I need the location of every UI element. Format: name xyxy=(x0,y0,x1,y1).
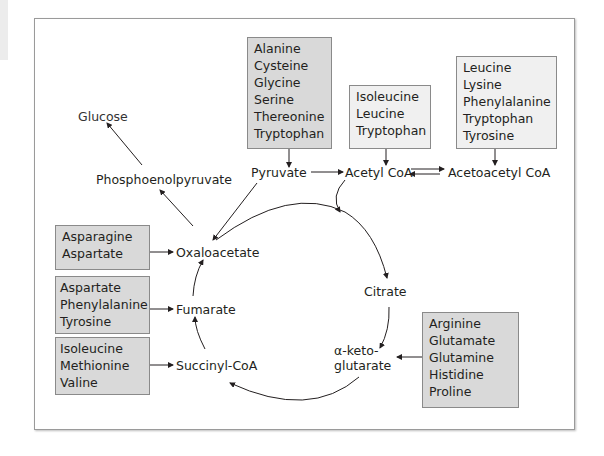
node-glucose: Glucose xyxy=(78,109,128,124)
amino-acid: Valine xyxy=(60,374,143,391)
node-fumarate: Fumarate xyxy=(176,302,236,317)
node-phosphoenolpyruvate: Phosphoenolpyruvate xyxy=(96,172,232,187)
box-fumarate-sources: Aspartate Phenylalanine Tyrosine xyxy=(55,276,150,334)
arrow-oxaloacetate-to-pep xyxy=(160,190,193,226)
amino-acid: Tryptophan xyxy=(254,125,325,142)
arrow-fumarate-to-oxaloacetate xyxy=(193,260,203,296)
amino-acid: Glutamate xyxy=(429,332,512,349)
arrow-oxaloacetate-to-citrate xyxy=(216,203,387,278)
node-citrate: Citrate xyxy=(364,284,407,299)
amino-acid: Methionine xyxy=(60,357,143,374)
amino-acid: Phenylalanine xyxy=(463,93,550,110)
node-acetoacetyl-coa: Acetoacetyl CoA xyxy=(448,165,550,180)
box-aketoglutarate-sources: Arginine Glutamate Glutamine Histidine P… xyxy=(422,312,519,408)
arrow-pep-to-glucose xyxy=(107,123,142,165)
amino-acid: Tyrosine xyxy=(463,127,550,144)
amino-acid: Arginine xyxy=(429,315,512,332)
box-succinylcoa-sources: Isoleucine Methionine Valine xyxy=(55,337,150,395)
node-succinyl-coa: Succinyl-CoA xyxy=(176,358,257,373)
amino-acid: Thereonine xyxy=(254,108,325,125)
box-acetoacetylcoa-sources: Leucine Lysine Phenylalanine Tryptophan … xyxy=(456,56,557,149)
arrow-pyruvate-to-oxaloacetate xyxy=(213,183,257,240)
amino-acid: Aspartate xyxy=(60,279,143,296)
box-oxaloacetate-sources: Asparagine Aspartate xyxy=(55,225,150,270)
amino-acid: Tryptophan xyxy=(463,110,550,127)
amino-acid: Alanine xyxy=(254,40,325,57)
amino-acid: Glycine xyxy=(254,74,325,91)
amino-acid: Isoleucine xyxy=(60,340,143,357)
amino-acid: Proline xyxy=(429,383,512,400)
arrow-citrate-to-aketoglutarate xyxy=(380,307,389,348)
node-oxaloacetate: Oxaloacetate xyxy=(176,245,259,260)
node-pyruvate: Pyruvate xyxy=(251,165,307,180)
arrow-aketoglutarate-to-succinylcoa xyxy=(230,377,359,400)
amino-acid: Histidine xyxy=(429,366,512,383)
node-alpha-ketoglutarate-1: α-keto- xyxy=(334,343,379,358)
amino-acid: Leucine xyxy=(463,59,550,76)
amino-acid: Isoleucine xyxy=(356,88,424,105)
arrow-acetylcoa-to-cycle xyxy=(336,180,345,212)
amino-acid: Phenylalanine xyxy=(60,296,143,313)
amino-acid: Cysteine xyxy=(254,57,325,74)
arrow-succinylcoa-to-fumarate xyxy=(195,317,205,349)
amino-acid: Glutamine xyxy=(429,349,512,366)
box-acetylcoa-sources: Isoleucine Leucine Tryptophan xyxy=(349,85,431,149)
amino-acid: Tyrosine xyxy=(60,313,143,330)
node-alpha-ketoglutarate-2: glutarate xyxy=(334,358,391,373)
amino-acid: Leucine xyxy=(356,105,424,122)
amino-acid: Tryptophan xyxy=(356,122,424,139)
box-pyruvate-sources: Alanine Cysteine Glycine Serine Thereoni… xyxy=(247,37,332,149)
node-acetyl-coa: Acetyl CoA xyxy=(345,165,413,180)
amino-acid: Lysine xyxy=(463,76,550,93)
amino-acid: Aspartate xyxy=(62,245,143,262)
amino-acid: Serine xyxy=(254,91,325,108)
amino-acid: Asparagine xyxy=(62,228,143,245)
